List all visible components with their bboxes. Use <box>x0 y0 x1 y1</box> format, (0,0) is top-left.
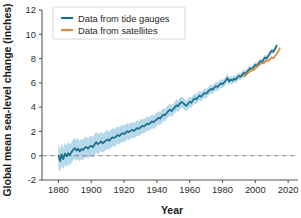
x-tick-label: 1920 <box>114 184 135 195</box>
y-tick-label: 4 <box>31 101 36 112</box>
chart-canvas: -2024681012 1880190019201940196019802000… <box>0 0 301 218</box>
x-tick-label: 1900 <box>81 184 102 195</box>
x-tick-label: 2020 <box>278 184 299 195</box>
x-tick-label: 1880 <box>48 184 69 195</box>
y-axis-title: Global mean sea-level change (inches) <box>1 3 13 196</box>
x-tick-label: 1980 <box>212 184 233 195</box>
y-tick-label: 0 <box>31 150 36 161</box>
y-tick-label: 8 <box>31 53 36 64</box>
y-tick-label: 2 <box>31 126 36 137</box>
x-tick-label: 1960 <box>179 184 200 195</box>
x-tick-label: 2000 <box>245 184 266 195</box>
y-tick-label: -2 <box>28 174 36 185</box>
legend-label-satellites: Data from satellites <box>78 26 158 36</box>
y-tick-label: 6 <box>31 77 36 88</box>
legend-label-tide-gauges: Data from tide gauges <box>78 14 170 24</box>
x-tick-label: 1940 <box>146 184 167 195</box>
x-axis-title: Year <box>161 204 183 216</box>
y-tick-label: 12 <box>26 4 36 15</box>
y-tick-label: 10 <box>26 29 36 40</box>
sea-level-chart: -2024681012 1880190019201940196019802000… <box>0 0 301 218</box>
chart-legend: Data from tide gauges Data from satellit… <box>53 7 185 39</box>
